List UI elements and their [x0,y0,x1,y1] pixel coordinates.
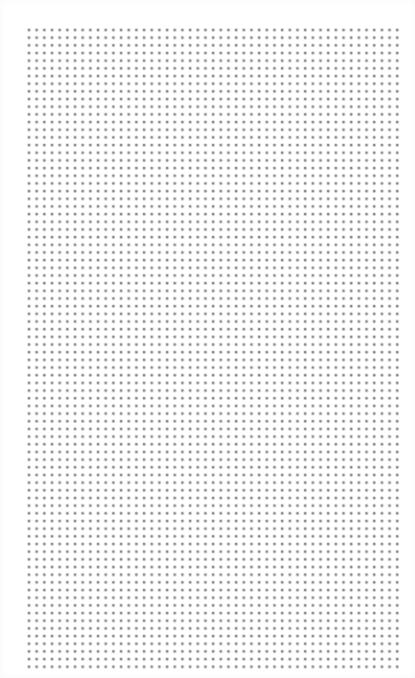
dot-grid-pattern [25,26,401,671]
dot-grid-page [0,0,415,678]
